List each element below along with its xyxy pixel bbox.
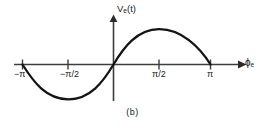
tick-label-pi-half: π/2 (152, 70, 166, 79)
figure-caption: (b) (0, 108, 265, 117)
tick-label-pi: π (207, 70, 213, 79)
y-axis-label-tail: (t) (127, 3, 136, 14)
figure-container: Ve(t) ϕe −π −π/2 π/2 π (b) (0, 0, 265, 127)
tick-label-neg-pi-half: −π/2 (60, 70, 79, 79)
y-axis-label: Ve(t) (117, 4, 136, 15)
y-axis-arrow-icon (110, 15, 118, 23)
x-axis-label-subscript: e (251, 61, 255, 68)
x-axis-label: ϕe (245, 58, 254, 69)
tick-label-neg-pi: −π (14, 70, 25, 79)
